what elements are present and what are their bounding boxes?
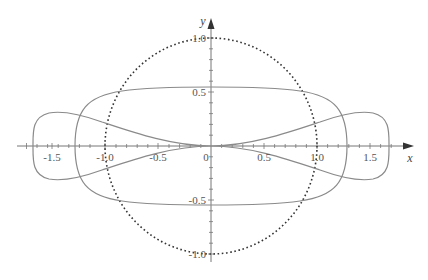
x-axis-label: x: [406, 151, 413, 165]
y-tick-label: 1.0: [192, 32, 206, 44]
x-tick-label: 0: [203, 151, 209, 163]
y-axis-arrow-icon: [208, 18, 215, 29]
x-tick-label: 1.5: [363, 151, 377, 163]
x-tick-label: 0.5: [257, 151, 271, 163]
x-tick-label: -1.0: [96, 151, 114, 163]
plot-area: -1.5 -1.0 -0.5 0 0.5 1.0 1.5 1.0 0.5 -0.…: [0, 0, 428, 280]
y-tick-label: -0.5: [189, 194, 207, 206]
x-tick-label: 1.0: [310, 151, 324, 163]
chart: -1.5 -1.0 -0.5 0 0.5 1.0 1.5 1.0 0.5 -0.…: [0, 0, 428, 280]
y-axis: [208, 28, 214, 262]
x-tick-label: -1.5: [43, 151, 61, 163]
y-tick-label: 0.5: [192, 86, 206, 98]
y-tick-label: -1.0: [189, 248, 207, 260]
x-axis-arrow-icon: [403, 143, 414, 150]
x-tick-label: -0.5: [149, 151, 167, 163]
y-axis-label: y: [199, 14, 206, 28]
